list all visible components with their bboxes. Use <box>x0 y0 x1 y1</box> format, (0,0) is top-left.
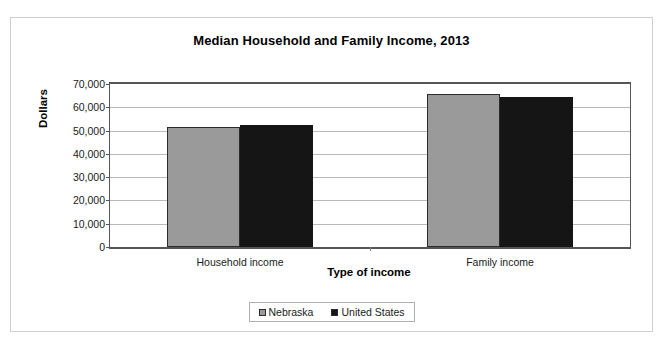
y-axis-tick-label: 70,000 <box>73 78 105 90</box>
legend-label: Nebraska <box>269 306 314 318</box>
y-axis-tick <box>106 154 110 155</box>
legend-label: United States <box>341 306 404 318</box>
bar-household-income-nebraska <box>167 127 240 247</box>
y-axis-tick-label: 60,000 <box>73 101 105 113</box>
y-axis-tick-label: 40,000 <box>73 148 105 160</box>
x-axis-tick <box>370 247 371 251</box>
y-axis-tick <box>106 107 110 108</box>
legend-swatch-icon <box>259 309 266 316</box>
y-axis-tick-label: 10,000 <box>73 218 105 230</box>
y-axis-tick <box>106 131 110 132</box>
plot-area: 010,00020,00030,00040,00050,00060,00070,… <box>109 82 631 249</box>
bar-family-income-nebraska <box>427 94 500 247</box>
legend-item-nebraska[interactable]: Nebraska <box>259 306 314 318</box>
y-axis-tick <box>106 224 110 225</box>
y-axis-tick-label: 20,000 <box>73 194 105 206</box>
y-axis-tick-label: 30,000 <box>73 171 105 183</box>
chart-frame: Median Household and Family Income, 2013… <box>10 17 653 332</box>
y-axis-title: Dollars <box>37 89 49 128</box>
x-axis-title: Type of income <box>109 266 629 278</box>
chart-title: Median Household and Family Income, 2013 <box>11 33 652 48</box>
legend-swatch-icon <box>331 309 338 316</box>
chart-legend: NebraskaUnited States <box>249 302 415 322</box>
y-axis-tick <box>106 177 110 178</box>
legend-item-united-states[interactable]: United States <box>331 306 404 318</box>
y-axis-tick-label: 50,000 <box>73 125 105 137</box>
y-axis-tick <box>106 247 110 248</box>
bar-family-income-united-states <box>500 97 573 247</box>
bar-household-income-united-states <box>240 125 313 247</box>
y-axis-tick <box>106 84 110 85</box>
y-axis-tick-label: 0 <box>99 241 105 253</box>
y-axis-tick <box>106 200 110 201</box>
